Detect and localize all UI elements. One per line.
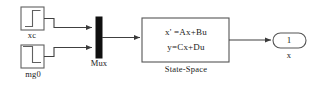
state-space-block-body[interactable] <box>142 18 229 62</box>
state-space-block-label: State-Space <box>165 65 207 74</box>
mux-block-label: Mux <box>91 59 108 68</box>
source-block-xc[interactable] <box>21 7 44 30</box>
mux-block-body[interactable] <box>96 17 102 58</box>
source-block-mg0[interactable] <box>21 45 44 68</box>
state-space-equation-line-1: x' =Ax+Bu <box>165 28 207 37</box>
state-space-equation-line-2: y=Cx+Du <box>167 43 205 52</box>
output-port-number: 1 <box>287 36 292 45</box>
source-block-mg0-label: mg0 <box>25 70 41 79</box>
wire-mg0-to-mux <box>44 48 92 57</box>
block-diagram-canvas: xc mg0 Mux x' =Ax+Bu y=Cx+Du State-Space… <box>0 0 318 91</box>
source-block-xc-label: xc <box>28 31 36 40</box>
wire-xc-to-mux <box>44 19 92 28</box>
diagram-graphics <box>0 0 318 91</box>
output-port-label: x <box>287 51 291 60</box>
